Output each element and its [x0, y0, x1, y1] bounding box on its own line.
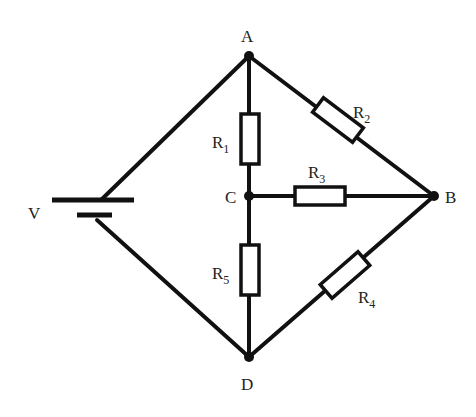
node-b-label: B	[445, 188, 456, 207]
resistor-r3	[295, 187, 345, 205]
node-a-dot	[244, 51, 254, 61]
resistor-r1	[241, 114, 259, 164]
source-label: V	[28, 204, 41, 223]
node-d-dot	[244, 352, 254, 362]
node-c-label: C	[225, 188, 236, 207]
r1-label: R1	[212, 133, 229, 156]
r4-label: R4	[358, 288, 375, 311]
r3-label: R3	[308, 163, 325, 186]
wire-battery-D	[97, 220, 249, 357]
node-c-dot	[244, 191, 254, 201]
wire-A-battery	[101, 56, 249, 200]
node-d-label: D	[241, 375, 253, 394]
resistor-r5	[241, 245, 259, 295]
circuit-diagram: A B C D V R1 R2 R3 R4 R5	[0, 0, 476, 417]
node-a-label: A	[241, 27, 254, 46]
node-b-dot	[429, 191, 439, 201]
r5-label: R5	[212, 264, 229, 287]
